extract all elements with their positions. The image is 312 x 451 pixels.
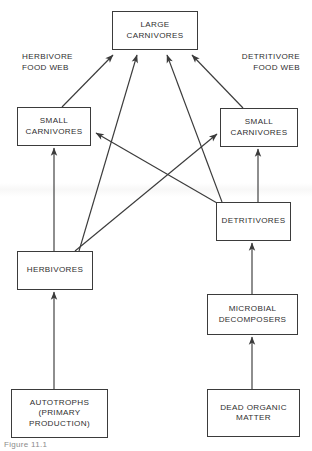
node-large-carnivores: LARGE CARNIVORES <box>112 11 198 50</box>
node-dead-organic-matter: DEAD ORGANIC MATTER <box>207 389 300 437</box>
node-microbial-decomposers: MICROBIAL DECOMPOSERS <box>207 294 298 335</box>
edge-small-carnivores-right-to-large-carnivores <box>192 55 243 108</box>
edge-detritivores-to-small-carnivores-left <box>96 133 217 203</box>
label-detritivore-food-web: DETRITIVORE FOOD WEB <box>242 52 300 73</box>
node-small-carnivores-right: SMALL CARNIVORES <box>220 108 298 147</box>
node-small-carnivores-left: SMALL CARNIVORES <box>17 107 91 146</box>
node-detritivores: DETRITIVORES <box>216 202 291 241</box>
node-herbivores: HERBIVORES <box>17 251 93 290</box>
food-web-diagram: LARGE CARNIVORES SMALL CARNIVORES SMALL … <box>0 0 312 451</box>
edge-herbivores-to-large-carnivores <box>79 55 137 251</box>
label-herbivore-food-web: HERBIVORE FOOD WEB <box>22 52 73 73</box>
figure-caption: Figure 11.1 <box>4 440 47 449</box>
node-autotrophs: AUTOTROPHS (PRIMARY PRODUCTION) <box>11 389 108 438</box>
